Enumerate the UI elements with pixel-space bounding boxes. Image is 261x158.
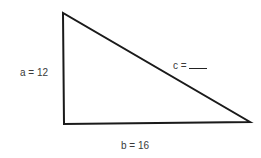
side-c-label-group: c = [173,60,207,71]
side-a-label: a = 12 [20,67,48,78]
triangle-figure [0,0,261,158]
answer-blank [189,62,207,69]
side-c-label: c = [173,60,187,71]
right-triangle [63,13,250,124]
side-b-label: b = 16 [121,140,149,151]
